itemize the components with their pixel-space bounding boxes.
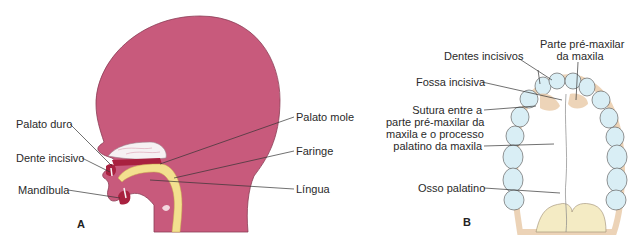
label-sutura-line2: parte pré-maxilar da (386, 116, 482, 128)
label-fossa-incisiva: Fossa incisiva (416, 76, 485, 88)
label-palato-duro: Palato duro (16, 118, 72, 130)
label-parte-premaxilar: Parte pré-maxilar da maxila (540, 38, 620, 62)
label-osso-palatino: Osso palatino (418, 182, 485, 194)
panel-letter-b: B (463, 216, 471, 228)
label-sutura-line1: Sutura entre a (386, 104, 482, 116)
label-sutura-line4: palatino da maxila (386, 140, 482, 152)
label-palato-mole: Palato mole (296, 111, 354, 123)
label-parte-premaxilar-line1: Parte pré-maxilar (540, 38, 620, 50)
label-sutura-line3: maxila e o processo (386, 128, 482, 140)
label-sutura: Sutura entre a parte pré-maxilar da maxi… (386, 104, 482, 152)
label-parte-premaxilar-line2: da maxila (540, 50, 620, 62)
label-lingua: Língua (296, 183, 330, 195)
panel-letter-a: A (77, 218, 85, 230)
label-mandibula: Mandíbula (18, 184, 69, 196)
label-faringe: Faringe (296, 145, 333, 157)
label-dente-incisivo: Dente incisivo (16, 152, 84, 164)
label-dentes-incisivos: Dentes incisivos (444, 50, 523, 62)
